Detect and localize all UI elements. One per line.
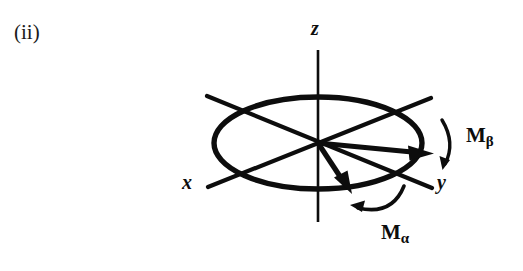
m-beta-vector xyxy=(318,143,434,161)
m-alpha-label: Mα xyxy=(381,222,409,246)
axis-label-z: z xyxy=(311,18,319,38)
m-alpha-label-subscript: α xyxy=(401,230,409,246)
m-beta-label-subscript: β xyxy=(486,133,494,149)
precession-arc-beta xyxy=(440,120,451,170)
coordinate-system-diagram xyxy=(0,0,523,271)
figure-label: (ii) xyxy=(14,22,40,43)
m-beta-label: Mβ xyxy=(466,125,494,149)
axis-label-x: x xyxy=(182,172,192,192)
m-alpha-label-base: M xyxy=(381,220,401,244)
axis-label-y: y xyxy=(437,172,446,192)
m-beta-label-base: M xyxy=(466,123,486,147)
precession-arc-alpha xyxy=(350,186,404,212)
figure-canvas: (ii) z x y Mβ Mα xyxy=(0,0,523,271)
